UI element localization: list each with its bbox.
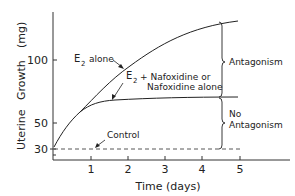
- y-tick-label-50: 50: [34, 117, 48, 130]
- y-axis-title-word3: (mg): [15, 22, 28, 48]
- e2-alone-label-sub: 2: [81, 60, 85, 68]
- control-label: Control: [107, 130, 140, 140]
- y-axis-title: Uterine Growth (mg): [15, 22, 28, 150]
- nafoxidine-label: E 2 + Nafoxidine or Nafoxidine alone: [126, 70, 223, 92]
- x-tick-label-5: 5: [237, 163, 244, 176]
- y-tick-label-100: 100: [27, 54, 48, 67]
- e2-alone-label-e: E: [74, 53, 80, 64]
- y-axis-title-word1: Uterine: [15, 109, 28, 150]
- no-antagonism-label: Antagonism: [229, 120, 283, 130]
- e2-alone-label-rest: alone: [89, 54, 114, 64]
- nafoxidine-arrow: [114, 83, 123, 97]
- y-axis-title-word2: Growth: [15, 60, 28, 100]
- nafoxidine-label-line2: Nafoxidine alone: [147, 82, 223, 92]
- x-tick-label-4: 4: [199, 163, 206, 176]
- nafoxidine-curve: [80, 97, 238, 112]
- no-label: No: [229, 109, 242, 119]
- e2-alone-label: E 2 alone: [74, 53, 114, 68]
- nafoxidine-label-rest: + Nafoxidine or: [140, 72, 211, 82]
- x-axis-title: Time (days): [135, 180, 201, 193]
- nafoxidine-label-sub: 2: [133, 77, 137, 85]
- y-tick-label-30: 30: [34, 143, 48, 156]
- antagonism-label: Antagonism: [229, 57, 283, 67]
- x-tick-label-2: 2: [125, 163, 132, 176]
- control-arrowhead: [95, 143, 100, 148]
- no-antagonism-bracket: [219, 98, 225, 149]
- uterine-growth-chart: 100 50 30 1 2 3 4 5 Time (days) Uterine …: [0, 0, 295, 196]
- nafoxidine-label-e: E: [126, 70, 132, 81]
- x-tick-label-1: 1: [88, 163, 95, 176]
- x-tick-label-3: 3: [162, 163, 169, 176]
